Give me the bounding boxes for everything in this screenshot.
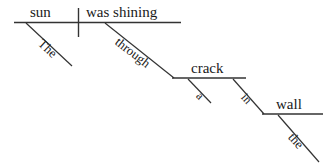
sentence-diagram: sun was shining crack wall The through a… — [0, 0, 323, 168]
word-object-wall: wall — [276, 97, 302, 112]
word-object-crack: crack — [191, 61, 223, 76]
diagram-lines — [0, 0, 323, 168]
word-predicate: was shining — [86, 5, 157, 20]
word-subject: sun — [30, 5, 51, 20]
